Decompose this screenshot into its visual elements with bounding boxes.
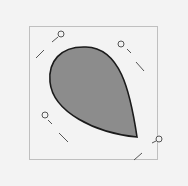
handle-knob-icon[interactable] <box>118 41 124 47</box>
drawing-canvas[interactable] <box>0 0 188 186</box>
teardrop-shape[interactable] <box>50 47 137 137</box>
handle-line <box>52 37 58 42</box>
handle-bottom-left[interactable] <box>42 112 68 142</box>
handle-knob-icon[interactable] <box>42 112 48 118</box>
handle-knob-icon[interactable] <box>58 31 64 37</box>
handle-line <box>136 62 144 71</box>
handle-knob-icon[interactable] <box>156 136 162 142</box>
handle-line <box>59 133 68 142</box>
handle-line <box>152 141 156 143</box>
handle-bottom-right[interactable] <box>134 136 162 160</box>
handle-top-right[interactable] <box>118 41 144 71</box>
handle-line <box>48 120 52 124</box>
handle-line <box>127 49 131 53</box>
handle-line <box>134 153 142 160</box>
handle-line <box>36 50 44 58</box>
